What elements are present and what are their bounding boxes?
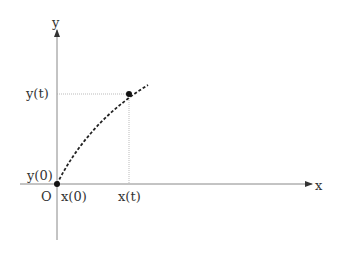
trajectory-curve	[57, 85, 148, 184]
trajectory-diagram: y x O x(0) x(t) y(0) y(t)	[0, 0, 342, 256]
current-point	[126, 91, 132, 97]
x0-label: x(0)	[61, 189, 87, 204]
yt-label: y(t)	[25, 86, 49, 101]
x-axis-label: x	[315, 178, 323, 193]
y0-label: y(0)	[26, 168, 53, 183]
origin-label: O	[41, 189, 52, 204]
xt-label: x(t)	[118, 189, 141, 204]
y-axis-label: y	[51, 15, 60, 30]
start-point	[54, 181, 60, 187]
